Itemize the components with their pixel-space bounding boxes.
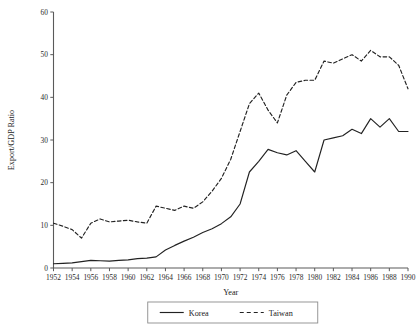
x-tick-label: 1990 <box>401 273 416 282</box>
x-tick-label: 1986 <box>363 273 378 282</box>
y-tick-label: 0 <box>44 264 48 273</box>
legend-label-taiwan: Taiwan <box>269 309 293 318</box>
chart-legend: KoreaTaiwan <box>148 302 318 323</box>
x-tick-label: 1980 <box>307 273 322 282</box>
x-tick-label: 1964 <box>158 273 173 282</box>
y-tick-label: 20 <box>41 178 49 187</box>
chart-plot-area: 0102030405060 19521954195619581960196219… <box>0 0 419 333</box>
y-tick-label: 30 <box>41 136 49 145</box>
y-tick-label: 10 <box>41 221 49 230</box>
y-tick-label: 60 <box>41 8 49 17</box>
x-tick-label: 1952 <box>46 273 61 282</box>
x-tick-label: 1988 <box>382 273 397 282</box>
x-tick-label: 1974 <box>251 273 266 282</box>
y-axis-title: Export/GDP Ratio <box>7 110 16 170</box>
x-tick-label: 1960 <box>121 273 136 282</box>
x-tick-label: 1972 <box>233 273 248 282</box>
series-line-taiwan <box>54 50 409 238</box>
x-tick-label: 1978 <box>289 273 304 282</box>
data-series-group <box>54 50 409 263</box>
y-tick-label: 50 <box>41 50 49 59</box>
x-tick-label: 1958 <box>102 273 117 282</box>
x-tick-label: 1982 <box>326 273 341 282</box>
x-tick-label: 1966 <box>177 273 192 282</box>
x-tick-label: 1956 <box>83 273 98 282</box>
y-tick-label: 40 <box>41 93 49 102</box>
x-tick-label: 1984 <box>345 273 360 282</box>
legend-label-korea: Korea <box>189 309 209 318</box>
export-gdp-ratio-chart: 0102030405060 19521954195619581960196219… <box>0 0 419 333</box>
y-axis-group: 0102030405060 <box>41 8 54 273</box>
x-axis-title: Year <box>223 288 238 297</box>
x-tick-label: 1954 <box>65 273 80 282</box>
x-axis-group: 1952195419561958196019621964196619681970… <box>46 268 416 282</box>
x-axis-ticks: 1952195419561958196019621964196619681970… <box>46 268 416 282</box>
x-tick-label: 1962 <box>139 273 154 282</box>
x-tick-label: 1970 <box>214 273 229 282</box>
x-tick-label: 1976 <box>270 273 285 282</box>
y-axis-ticks: 0102030405060 <box>41 8 54 273</box>
series-line-korea <box>54 119 409 264</box>
x-tick-label: 1968 <box>195 273 210 282</box>
